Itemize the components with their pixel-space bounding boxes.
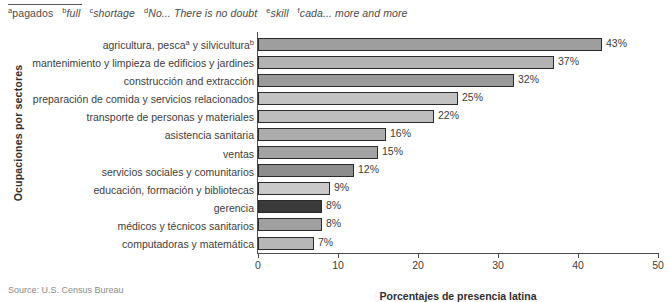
bar-value-label: 25%: [462, 91, 483, 103]
bar-row: 22%: [258, 108, 658, 126]
x-tick-mark: [418, 253, 419, 258]
x-tick-label: 20: [412, 259, 424, 271]
bar-value-label: 8%: [326, 217, 341, 229]
x-tick-mark: [498, 253, 499, 258]
category-label: gerencia: [16, 199, 254, 217]
bar-value-label: 37%: [558, 55, 579, 67]
category-label: construcción and extracción: [16, 72, 254, 90]
bar-row: 8%: [258, 217, 658, 235]
bar[interactable]: [258, 128, 386, 141]
bar-value-label: 32%: [518, 73, 539, 85]
footnote-item: fcada... more and more: [298, 7, 408, 19]
bar-row: 16%: [258, 126, 658, 144]
x-tick-mark: [258, 253, 259, 258]
category-label: servicios sociales y comunitarios: [16, 163, 254, 181]
footnote-item: eskill: [266, 7, 288, 19]
footnote-divider: [8, 4, 82, 5]
bar-row: 8%: [258, 199, 658, 217]
x-axis-line: [257, 253, 658, 254]
footnote-text: shortage: [93, 7, 135, 19]
bar[interactable]: [258, 164, 354, 177]
bar-row: 9%: [258, 181, 658, 199]
bar-value-label: 22%: [438, 109, 459, 121]
bar[interactable]: [258, 182, 330, 195]
footnote-item: cshortage: [89, 7, 135, 19]
category-label: transporte de personas y materiales: [16, 108, 254, 126]
bar-value-label: 7%: [318, 236, 333, 248]
bar-row: 43%: [258, 36, 658, 54]
category-label: asistencia sanitaria: [16, 126, 254, 144]
bar-row: 15%: [258, 145, 658, 163]
bar[interactable]: [258, 200, 322, 213]
x-tick-label: 40: [572, 259, 584, 271]
footnote-text: skill: [271, 7, 289, 19]
bar-value-label: 12%: [358, 163, 379, 175]
bar[interactable]: [258, 38, 602, 51]
bar[interactable]: [258, 110, 434, 123]
bar[interactable]: [258, 92, 458, 105]
footnote-text: pagados: [12, 7, 53, 19]
category-label: mantenimiento y limpieza de edificios y …: [16, 54, 254, 72]
bar[interactable]: [258, 146, 378, 159]
x-tick-mark: [658, 253, 659, 258]
footnote-text: full: [67, 7, 81, 19]
bar-value-label: 15%: [382, 145, 403, 157]
bar-row: 25%: [258, 90, 658, 108]
x-axis-title: Porcentajes de presencia latina: [258, 290, 658, 302]
x-tick-label: 0: [255, 259, 261, 271]
category-label: médicos y técnicos sanitarios: [16, 217, 254, 235]
footnote-text: No... There is no doubt: [148, 7, 257, 19]
x-tick-label: 10: [332, 259, 344, 271]
bar[interactable]: [258, 218, 322, 231]
plot-area: 43%37%32%25%22%16%15%12%9%8%8%7% 0102030…: [258, 36, 658, 253]
bar[interactable]: [258, 56, 554, 69]
bar-value-label: 16%: [390, 127, 411, 139]
footnote-item: bfull: [62, 7, 80, 19]
category-label: computadoras y matemática: [16, 235, 254, 253]
category-label: preparación de comida y servicios relaci…: [16, 90, 254, 108]
x-tick-mark: [578, 253, 579, 258]
bar-row: 7%: [258, 235, 658, 253]
category-label-column: agricultura, pescaa y silviculturabmante…: [16, 36, 254, 253]
x-tick-mark: [338, 253, 339, 258]
footnote-item: apagados: [8, 7, 53, 19]
bar-chart: Ocupaciones por sectores agricultura, pe…: [0, 32, 669, 272]
category-label: agricultura, pescaa y silviculturab: [16, 36, 254, 54]
category-label: educación, formación y bibliotecas: [16, 181, 254, 199]
bar-row: 37%: [258, 54, 658, 72]
bar[interactable]: [258, 237, 314, 250]
bar-value-label: 9%: [334, 181, 349, 193]
footnote-item: dNo... There is no doubt: [144, 7, 257, 19]
bar[interactable]: [258, 74, 514, 87]
category-label: ventas: [16, 145, 254, 163]
bar-value-label: 8%: [326, 199, 341, 211]
bar-row: 32%: [258, 72, 658, 90]
bar-row: 12%: [258, 163, 658, 181]
footnote-list: apagadosbfullcshortagedNo... There is no…: [8, 7, 658, 19]
x-tick-label: 50: [652, 259, 664, 271]
x-tick-label: 30: [492, 259, 504, 271]
footnote-text: cada... more and more: [300, 7, 408, 19]
bar-series: 43%37%32%25%22%16%15%12%9%8%8%7%: [258, 36, 658, 253]
source-note: Source: U.S. Census Bureau: [8, 285, 124, 295]
bar-value-label: 43%: [606, 37, 627, 49]
